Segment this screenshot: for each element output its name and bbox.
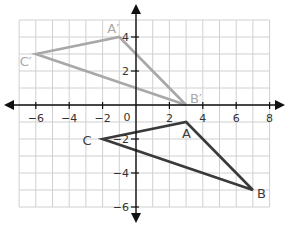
vertex-label: A [182, 126, 191, 141]
y-tick-label: −4 [113, 167, 129, 180]
x-tick-label: −4 [61, 112, 77, 125]
labels: ABCA′B′C′ [20, 21, 266, 201]
vertex-label: C [83, 133, 92, 148]
x-tick-label: 2 [166, 112, 173, 125]
y-tick-label: 2 [122, 65, 129, 78]
x-tick-label: 4 [199, 112, 206, 125]
y-tick-label: 4 [122, 31, 129, 44]
origin-label: 0 [124, 111, 131, 124]
y-tick-label: −2 [113, 133, 129, 146]
coordinate-plane: −6−4−2246842−2−4−60 ABCA′B′C′ [0, 0, 289, 225]
vertex-label: C′ [20, 54, 32, 69]
y-tick-label: −6 [113, 201, 129, 214]
x-tick-label: 8 [266, 112, 273, 125]
y-axis-down-arrow-icon [131, 213, 141, 223]
x-tick-label: 6 [233, 112, 240, 125]
vertex-label: B [257, 186, 266, 201]
vertex-label: A′ [107, 21, 119, 36]
vertex-label: B′ [190, 91, 202, 106]
y-axis-up-arrow-icon [131, 4, 141, 14]
x-tick-label: −2 [94, 112, 110, 125]
coordinate-plane-svg: −6−4−2246842−2−4−60 ABCA′B′C′ [0, 0, 289, 225]
x-axis-left-arrow-icon [4, 100, 14, 110]
x-tick-label: −6 [28, 112, 44, 125]
x-axis-right-arrow-icon [275, 100, 285, 110]
